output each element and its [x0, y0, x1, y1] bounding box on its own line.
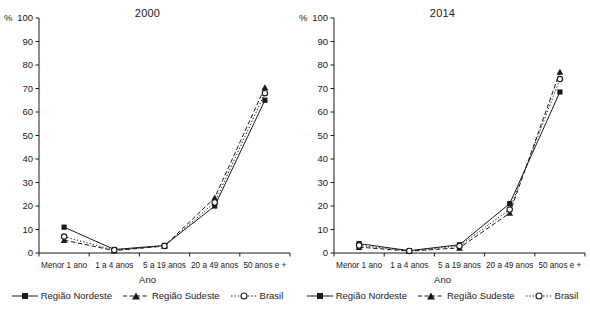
filled-square-marker-icon: [557, 89, 562, 94]
x-axis-title-2000: Ano: [0, 274, 295, 285]
y-axis-tick-label: 100: [17, 12, 33, 23]
filled-triangle-marker-icon: [418, 291, 444, 301]
x-axis-category-label: 20 a 49 anos: [486, 261, 533, 270]
legend-entry-brasil: Brasil: [526, 291, 579, 301]
legend-label-regiao-sudeste: Região Sudeste: [447, 291, 515, 301]
y-axis-tick-label: 50: [22, 130, 33, 141]
legend-entry-regiao-nordeste: Região Nordeste: [12, 291, 112, 301]
y-axis-tick-label: 0: [28, 247, 33, 258]
y-axis-unit-label: %: [299, 12, 308, 23]
x-axis-category-label: 1 a 4 anos: [95, 261, 133, 270]
x-axis-category-label: 5 a 19 anos: [143, 261, 186, 270]
y-axis-tick-label: 60: [22, 106, 33, 117]
line-chart-2000: 0102030405060708090100%Menor 1 ano1 a 4 …: [0, 0, 295, 315]
open-circle-marker-icon: [61, 234, 66, 239]
legend-label-brasil: Brasil: [555, 291, 579, 301]
filled-square-marker-icon: [62, 225, 67, 230]
legend-label-brasil: Brasil: [260, 291, 284, 301]
open-circle-marker-icon: [262, 91, 267, 96]
x-axis-category-label: 1 a 4 anos: [390, 261, 428, 270]
y-axis-tick-label: 40: [317, 153, 328, 164]
y-axis-tick-label: 80: [317, 59, 328, 70]
chart-panel-2014: 2014 0102030405060708090100%Menor 1 ano1…: [295, 0, 590, 315]
legend-entry-regiao-sudeste: Região Sudeste: [123, 291, 220, 301]
series-line: [359, 72, 560, 251]
legend-entry-brasil: Brasil: [231, 291, 284, 301]
x-axis-category-label: Menor 1 ano: [41, 261, 87, 270]
series-line: [64, 93, 265, 250]
y-axis-tick-label: 0: [323, 247, 328, 258]
open-circle-marker-icon: [212, 200, 217, 205]
legend-entry-regiao-nordeste: Região Nordeste: [307, 291, 407, 301]
open-circle-marker-icon: [112, 247, 117, 252]
series-line: [64, 87, 265, 250]
y-axis-tick-label: 10: [317, 224, 328, 235]
y-axis-unit-label: %: [4, 12, 13, 23]
open-circle-marker-icon: [457, 243, 462, 248]
y-axis-tick-label: 20: [317, 200, 328, 211]
x-axis-category-label: Menor 1 ano: [336, 261, 382, 270]
y-axis-tick-label: 70: [317, 83, 328, 94]
y-axis-tick-label: 100: [312, 12, 328, 23]
y-axis-tick-label: 50: [317, 130, 328, 141]
x-axis-title-2014: Ano: [295, 274, 590, 285]
y-axis-tick-label: 80: [22, 59, 33, 70]
legend-2000: Região Nordeste Região Sudeste: [0, 291, 295, 301]
series-1: [357, 89, 563, 253]
filled-triangle-marker-icon: [123, 291, 149, 301]
legend-label-regiao-nordeste: Região Nordeste: [336, 291, 407, 301]
series-3: [61, 91, 267, 253]
series-1: [62, 98, 268, 252]
x-axis-category-label: 5 a 19 anos: [438, 261, 481, 270]
x-axis-category-label: 20 a 49 anos: [191, 261, 238, 270]
filled-square-marker-icon: [12, 291, 38, 301]
y-axis-tick-label: 20: [22, 200, 33, 211]
x-axis-category-label: 50 anos e +: [538, 261, 581, 270]
open-circle-marker-icon: [557, 76, 562, 81]
series-line: [359, 92, 560, 251]
open-circle-marker-icon: [356, 243, 361, 248]
chart-panel-2000: 2000 0102030405060708090100%Menor 1 ano1…: [0, 0, 295, 315]
y-axis-tick-label: 40: [22, 153, 33, 164]
series-line: [64, 100, 265, 249]
y-axis-tick-label: 70: [22, 83, 33, 94]
open-circle-marker-icon: [231, 291, 257, 301]
filled-square-marker-icon: [307, 291, 333, 301]
legend-label-regiao-nordeste: Região Nordeste: [41, 291, 112, 301]
y-axis-tick-label: 60: [317, 106, 328, 117]
x-axis-category-label: 50 anos e +: [243, 261, 286, 270]
y-axis-tick-label: 10: [22, 224, 33, 235]
legend-2014: Região Nordeste Região Sudeste: [295, 291, 590, 301]
y-axis-tick-label: 90: [22, 36, 33, 47]
line-chart-2014: 0102030405060708090100%Menor 1 ano1 a 4 …: [295, 0, 590, 315]
open-circle-marker-icon: [526, 291, 552, 301]
series-2: [356, 69, 564, 254]
open-circle-marker-icon: [407, 248, 412, 253]
open-circle-marker-icon: [507, 207, 512, 212]
y-axis-tick-label: 90: [317, 36, 328, 47]
legend-label-regiao-sudeste: Região Sudeste: [152, 291, 220, 301]
y-axis-tick-label: 30: [22, 177, 33, 188]
open-circle-marker-icon: [162, 243, 167, 248]
chart-page: 2000 0102030405060708090100%Menor 1 ano1…: [0, 0, 590, 315]
series-line: [359, 79, 560, 251]
filled-triangle-marker-icon: [262, 84, 269, 90]
series-2: [61, 84, 269, 253]
series-3: [356, 76, 562, 253]
legend-entry-regiao-sudeste: Região Sudeste: [418, 291, 515, 301]
filled-square-marker-icon: [262, 98, 267, 103]
filled-triangle-marker-icon: [557, 69, 564, 75]
y-axis-tick-label: 30: [317, 177, 328, 188]
